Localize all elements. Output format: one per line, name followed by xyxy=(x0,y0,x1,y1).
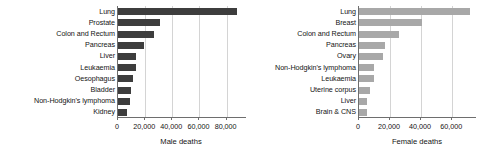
bar xyxy=(359,19,422,26)
category-label: Lung xyxy=(340,8,356,16)
bar xyxy=(359,109,367,116)
bar xyxy=(359,64,374,71)
x-tick-label: 80,000 xyxy=(215,123,237,131)
bar xyxy=(118,53,136,60)
category-label: Brain & CNS xyxy=(316,108,356,116)
category-label: Bladder xyxy=(91,86,115,94)
bar xyxy=(359,42,385,49)
male-axis-title: Male deaths xyxy=(160,137,201,146)
bar xyxy=(118,75,133,82)
x-tick-mark xyxy=(451,118,452,120)
x-tick-mark xyxy=(420,118,421,120)
bar xyxy=(359,98,367,105)
bar xyxy=(118,42,144,49)
male-plot-area xyxy=(117,6,246,118)
male-category-axis: LungProstateColon and RectumPancreasLive… xyxy=(0,6,115,118)
bar xyxy=(359,75,374,82)
category-label: Prostate xyxy=(89,19,115,27)
bar xyxy=(118,98,130,105)
x-tick-label: 40,000 xyxy=(409,123,431,131)
female-deaths-panel: LungBreastColon and RectumPancreasOvaryN… xyxy=(240,0,480,157)
female-axis-title: Female deaths xyxy=(392,137,442,146)
x-tick-label: 60,000 xyxy=(440,123,462,131)
gridline xyxy=(452,6,453,117)
x-tick-mark xyxy=(226,118,227,120)
gridline xyxy=(172,6,173,117)
category-label: Liver xyxy=(100,52,115,60)
x-tick-mark xyxy=(144,118,145,120)
gridline xyxy=(199,6,200,117)
bar xyxy=(118,87,131,94)
x-tick-label: 60,000 xyxy=(187,123,209,131)
category-label: Colon and Rectum xyxy=(297,30,356,38)
male-deaths-panel: LungProstateColon and RectumPancreasLive… xyxy=(0,0,240,157)
category-label: Lung xyxy=(99,8,115,16)
bar xyxy=(359,31,399,38)
bar xyxy=(118,19,160,26)
category-label: Non-Hodgkin's lymphoma xyxy=(275,64,356,72)
x-tick-mark xyxy=(389,118,390,120)
x-tick-label: 20,000 xyxy=(378,123,400,131)
category-label: Pancreas xyxy=(85,41,115,49)
bar xyxy=(359,53,383,60)
x-tick-label: 0 xyxy=(115,123,119,131)
x-tick-label: 40,000 xyxy=(160,123,182,131)
category-label: Colon and Rectum xyxy=(56,30,115,38)
category-label: Kidney xyxy=(93,108,115,116)
bar xyxy=(118,64,136,71)
x-tick-mark xyxy=(117,118,118,120)
x-tick-mark xyxy=(171,118,172,120)
bar xyxy=(359,8,470,15)
female-plot-area xyxy=(358,6,476,118)
category-label: Liver xyxy=(341,97,356,105)
bar xyxy=(118,109,127,116)
category-label: Leukaemia xyxy=(321,75,356,83)
figure-root: LungProstateColon and RectumPancreasLive… xyxy=(0,0,480,157)
x-tick-label: 0 xyxy=(356,123,360,131)
bar xyxy=(118,8,237,15)
category-label: Uterine corpus xyxy=(310,86,356,94)
category-label: Ovary xyxy=(337,52,356,60)
category-label: Breast xyxy=(336,19,356,27)
x-tick-label: 20,000 xyxy=(133,123,155,131)
bar xyxy=(359,87,370,94)
bar xyxy=(118,31,154,38)
female-category-axis: LungBreastColon and RectumPancreasOvaryN… xyxy=(240,6,356,118)
gridline xyxy=(227,6,228,117)
category-label: Oesophagus xyxy=(75,75,115,83)
x-tick-mark xyxy=(198,118,199,120)
x-tick-mark xyxy=(358,118,359,120)
category-label: Pancreas xyxy=(326,41,356,49)
category-label: Leukaemia xyxy=(80,64,115,72)
category-label: Non-Hodgkin's lymphoma xyxy=(34,97,115,105)
